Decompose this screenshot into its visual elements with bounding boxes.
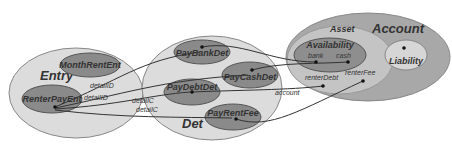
renter-fee-port bbox=[361, 79, 365, 83]
account-label: Account bbox=[371, 21, 425, 36]
edge-label-detail-id-1: detailID bbox=[90, 82, 114, 89]
cash-port bbox=[346, 60, 350, 64]
pay-bank-det-port bbox=[200, 45, 204, 49]
asset-label: Asset bbox=[329, 24, 356, 34]
edge-label-detail-c-2: detailC bbox=[136, 106, 159, 113]
edge-label-detail-c-1: detailC bbox=[132, 97, 155, 104]
edge-label-account: account bbox=[275, 89, 301, 96]
liability-port bbox=[402, 46, 406, 50]
pay-debt-det-port bbox=[190, 90, 194, 94]
month-rent-ent-label: MonthRentEnt bbox=[59, 60, 121, 70]
renter-fee-port-label: renterFee bbox=[345, 69, 375, 76]
renter-debt-port-label: renterDebt bbox=[305, 74, 339, 81]
pay-bank-det-label: PayBankDet bbox=[176, 48, 230, 58]
edge-label-detail-id-2: detailID bbox=[84, 94, 108, 101]
renter-debt-port bbox=[321, 84, 325, 88]
bank-port bbox=[314, 60, 318, 64]
liability-label: Liability bbox=[389, 56, 424, 66]
diagram-canvas: Entry MonthRentEnt RenterPayEnt Det PayB… bbox=[0, 0, 452, 152]
det-label: Det bbox=[182, 116, 204, 131]
bank-port-label: bank bbox=[308, 52, 324, 59]
cash-port-label: cash bbox=[336, 52, 351, 59]
pay-cash-det-label: PayCashDet bbox=[224, 72, 278, 82]
availability-label: Availability bbox=[305, 40, 355, 50]
pay-rent-fee-label: PayRentFee bbox=[207, 108, 259, 118]
pay-rent-fee-port bbox=[234, 117, 238, 121]
renter-pay-ent-port bbox=[53, 105, 57, 109]
pay-cash-det-port bbox=[250, 68, 254, 72]
